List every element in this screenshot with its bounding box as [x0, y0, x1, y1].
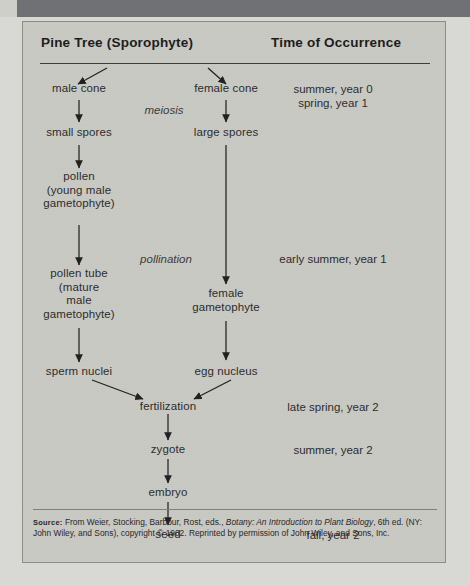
node-embryo: embryo: [149, 486, 188, 500]
time-fertilization: late spring, year 2: [287, 400, 378, 414]
process-label-meiosis: meiosis: [145, 104, 184, 116]
node-sperm-nuclei: sperm nuclei: [46, 365, 112, 379]
source-label: Source:: [33, 518, 63, 527]
node-pollen: pollen (young male gametophyte): [43, 170, 115, 211]
node-egg-nucleus: egg nucleus: [194, 365, 257, 379]
node-female-gametophyte: female gametophyte: [192, 287, 260, 314]
time-cones: summer, year 0 spring, year 1: [293, 82, 372, 110]
time-zygote: summer, year 2: [293, 443, 372, 457]
process-label-pollination: pollination: [140, 253, 192, 265]
node-zygote: zygote: [151, 443, 185, 457]
node-pollen-tube: pollen tube (mature male gametophyte): [43, 267, 115, 321]
source-divider-rule: [33, 509, 437, 510]
source-book-title: Botany: An Introduction to Plant Biology: [226, 517, 373, 527]
top-bar-left-margin: [0, 0, 17, 17]
node-male-cone: male cone: [52, 82, 106, 96]
node-large-spores: large spores: [194, 126, 258, 140]
time-pollination: early summer, year 1: [279, 252, 386, 266]
top-dark-banner: [17, 0, 470, 17]
node-fertilization: fertilization: [140, 400, 196, 414]
node-female-cone: female cone: [194, 82, 258, 96]
source-text-part1: From Weier, Stocking, Barbour, Rost, eds…: [63, 517, 226, 527]
figure-panel: Pine Tree (Sporophyte) Time of Occurrenc…: [22, 21, 446, 563]
node-small-spores: small spores: [46, 126, 112, 140]
source-caption: Source: From Weier, Stocking, Barbour, R…: [33, 517, 437, 540]
